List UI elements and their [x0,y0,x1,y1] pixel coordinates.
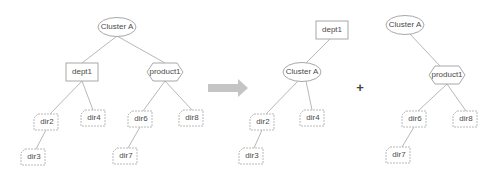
right1-dir2-label: dir2 [256,118,269,126]
left-dir2-label: dir2 [40,118,53,126]
left-dept1-label: dept1 [72,68,92,76]
right2-dir8-label: dir8 [459,115,472,123]
plus-operator: + [356,81,364,94]
right-tree1-shapes [239,21,348,164]
diagram-canvas [0,0,504,173]
right2-dir6-label: dir6 [408,115,421,123]
right2-cluster-a-label: Cluster A [389,21,421,29]
left-tree-edges [36,36,192,149]
right1-dir3-label: dir3 [245,152,258,160]
right1-dept1-label: dept1 [322,26,342,34]
left-dir8-label: dir8 [185,114,198,122]
right-tree2-shapes [386,16,477,164]
left-dir3-label: dir3 [27,153,40,161]
left-cluster-a-label: Cluster A [101,23,133,31]
left-dir6-label: dir6 [134,115,147,123]
right-tree1-edges [254,39,330,148]
right2-dir7-label: dir7 [392,151,405,159]
left-product1-label: product1 [149,68,180,76]
right-tree2-edges [402,34,466,147]
right1-cluster-a-label: Cluster A [286,68,318,76]
right2-product1-label: product1 [431,71,462,79]
right1-dir4-label: dir4 [306,114,319,122]
left-dir4-label: dir4 [87,114,100,122]
transform-arrow-icon [208,79,248,97]
left-dir7-label: dir7 [119,152,132,160]
